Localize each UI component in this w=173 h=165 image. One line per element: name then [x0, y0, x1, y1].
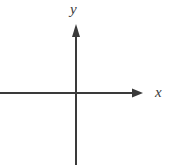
x-axis-arrowhead-icon	[132, 89, 143, 98]
axes-drawing	[0, 0, 173, 165]
y-axis-arrowhead-icon	[72, 24, 80, 37]
y-axis-label: y	[70, 2, 77, 17]
coordinate-axes-figure: y x	[0, 0, 173, 165]
x-axis-label: x	[155, 85, 162, 100]
